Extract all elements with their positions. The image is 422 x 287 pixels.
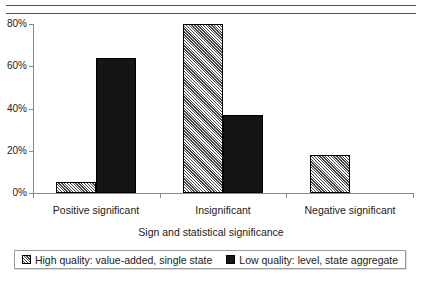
category-label-0: Positive significant bbox=[53, 204, 139, 216]
legend-label-low-quality: Low quality: level, state aggregate bbox=[239, 254, 398, 266]
solid-swatch-icon bbox=[226, 255, 235, 264]
category-label-2: Negative significant bbox=[304, 204, 395, 216]
plot-area: 0%20%40%60%80% Positive significantInsig… bbox=[33, 18, 413, 193]
chart-legend: High quality: value-added, single state … bbox=[14, 250, 406, 269]
bar-0-1 bbox=[96, 58, 136, 193]
hatched-swatch-icon bbox=[22, 255, 31, 264]
header-rule-lower bbox=[6, 13, 416, 14]
x-axis-title: Sign and statistical significance bbox=[0, 226, 422, 238]
y-tick-label-40: 40% bbox=[7, 104, 27, 114]
header-rule-upper bbox=[6, 5, 416, 6]
y-tick-label-20: 20% bbox=[7, 146, 27, 156]
legend-entry-high-quality: High quality: value-added, single state bbox=[22, 254, 212, 266]
bars-layer bbox=[33, 18, 413, 193]
x-axis-line bbox=[33, 193, 413, 194]
bar-2-0 bbox=[310, 155, 350, 193]
bar-0-0 bbox=[56, 182, 96, 193]
legend-label-high-quality: High quality: value-added, single state bbox=[35, 254, 212, 266]
bar-1-0 bbox=[183, 24, 223, 193]
x-tick-2 bbox=[286, 193, 287, 198]
x-tick-0 bbox=[33, 193, 34, 198]
y-tick-label-60: 60% bbox=[7, 61, 27, 71]
y-tick-label-0: 0% bbox=[13, 188, 27, 198]
category-label-1: Insignificant bbox=[195, 204, 250, 216]
chart-page: 0%20%40%60%80% Positive significantInsig… bbox=[0, 0, 422, 287]
x-tick-1 bbox=[160, 193, 161, 198]
x-tick-3 bbox=[413, 193, 414, 198]
bar-1-1 bbox=[223, 115, 263, 193]
legend-entry-low-quality: Low quality: level, state aggregate bbox=[226, 254, 398, 266]
y-tick-label-80: 80% bbox=[7, 19, 27, 29]
